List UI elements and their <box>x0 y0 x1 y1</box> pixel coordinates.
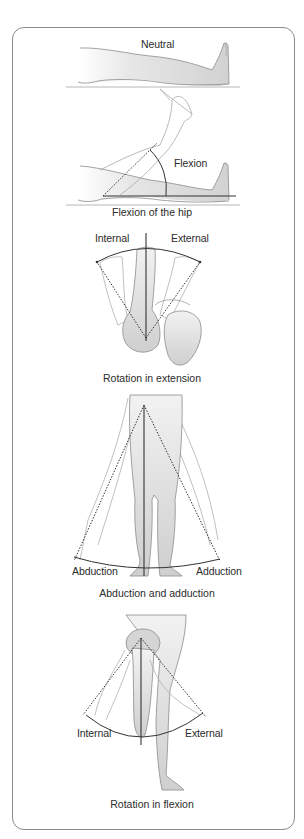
label-abduction: Abduction <box>72 565 118 577</box>
label-adduction: Adduction <box>196 565 242 577</box>
rotation-flexion-drawing <box>83 615 206 790</box>
flexion-leg-drawing <box>66 89 240 205</box>
abduction-adduction-drawing <box>74 395 220 576</box>
label-internal-extension: Internal <box>95 232 129 244</box>
label-external-flexion: External <box>185 727 223 739</box>
caption-rotation-in-flexion: Rotation in flexion <box>110 798 193 810</box>
label-internal-flexion: Internal <box>77 727 111 739</box>
hip-range-of-motion-illustration <box>0 0 304 839</box>
label-neutral: Neutral <box>141 38 174 50</box>
caption-rotation-in-extension: Rotation in extension <box>103 372 201 384</box>
caption-flexion-of-hip: Flexion of the hip <box>112 206 192 218</box>
label-flexion: Flexion <box>174 157 207 169</box>
label-external-extension: External <box>171 232 209 244</box>
caption-abduction-and-adduction: Abduction and adduction <box>99 587 215 599</box>
rotation-extension-drawing <box>96 233 202 365</box>
